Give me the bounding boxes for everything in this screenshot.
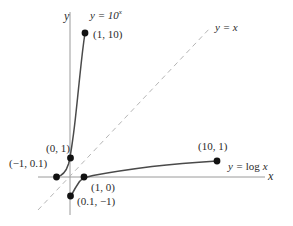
point-dot-log-01-neg1: [67, 193, 74, 200]
point-label-exp-0-1: (0, 1): [46, 143, 70, 154]
plot-canvas: [0, 0, 293, 226]
point-dot-log-1-0: [81, 174, 88, 181]
logarithm-curve-label-prefix: y =: [228, 160, 246, 172]
point-label-log-1-0: (1, 0): [91, 182, 115, 193]
x-axis-label: x: [268, 170, 273, 182]
point-dot-log-10-1: [214, 158, 221, 165]
logarithm-curve-label-function: log: [246, 160, 260, 172]
point-label-log-01-neg1: (0.1, −1): [77, 196, 115, 207]
logarithm-curve-label-argument: x: [263, 160, 268, 172]
point-dot-exp-neg1-01: [53, 174, 60, 181]
point-label-log-10-1: (10, 1): [198, 141, 227, 152]
logarithm-curve-label: y = log x: [228, 161, 268, 172]
math-figure: y x y = 10x y = x y = log x (1, 10) (0, …: [0, 0, 293, 226]
exponential-curve-label: y = 10x: [90, 10, 122, 21]
point-dot-exp-1-10: [82, 30, 89, 37]
y-axis-label: y: [64, 10, 69, 22]
point-label-exp-1-10: (1, 10): [93, 29, 122, 40]
exponential-curve-label-base: y = 10: [90, 9, 119, 21]
point-dot-exp-0-1: [67, 155, 74, 162]
point-label-exp-neg1-01: (−1, 0.1): [9, 158, 47, 169]
identity-line-label: y = x: [215, 22, 238, 33]
exponential-curve-label-exponent: x: [119, 8, 122, 16]
identity-line-dashed: [38, 27, 211, 210]
